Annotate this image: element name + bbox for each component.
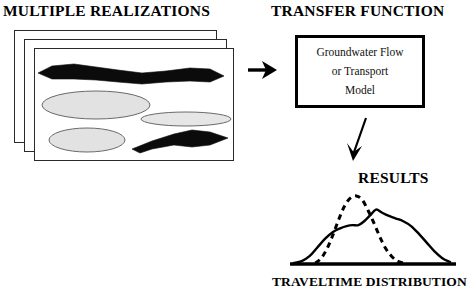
- arrow-down-icon: [344, 115, 378, 169]
- channel-band-lower: [132, 130, 228, 153]
- transfer-box-line-2: or Transport: [332, 62, 389, 81]
- lens-ellipse-middle-right: [141, 112, 231, 126]
- transfer-box-line-3: Model: [345, 81, 375, 100]
- arrow-right-icon: [246, 57, 286, 87]
- curve-broad-distribution: [294, 209, 450, 263]
- results-title: RESULTS: [358, 169, 429, 187]
- transfer-function-title: TRANSFER FUNCTION: [271, 2, 444, 20]
- multiple-realizations-title: MULTIPLE REALIZATIONS: [3, 2, 210, 20]
- lens-ellipse-upper-left: [42, 91, 150, 119]
- traveltime-distribution-plot: [288, 190, 458, 272]
- traveltime-distribution-caption: TRAVELTIME DISTRIBUTION: [272, 274, 467, 290]
- realization-facies-content: [34, 48, 234, 161]
- channel-band-upper: [38, 64, 224, 84]
- transfer-box-line-1: Groundwater Flow: [316, 43, 403, 62]
- curve-narrow-distribution: [315, 196, 403, 263]
- lens-ellipse-lower-left: [49, 128, 125, 152]
- transfer-function-box: Groundwater Flow or Transport Model: [295, 35, 425, 108]
